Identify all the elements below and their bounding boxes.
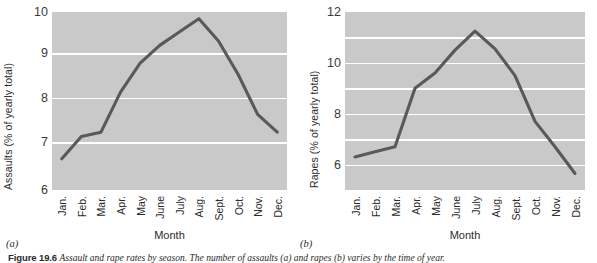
x-tick-mark [100, 190, 101, 195]
x-tick-label-mar: Mar. [390, 196, 402, 216]
x-tick-mark [374, 190, 375, 195]
figure-caption: Figure 19.6 Assault and rape rates by se… [8, 252, 593, 263]
x-tick-label-sept: Sept. [510, 196, 522, 221]
x-tick-label-oct: Oct. [530, 196, 542, 215]
x-tick-label-jan: Jan. [350, 196, 362, 216]
x-tick-label-may: May [430, 196, 442, 216]
x-tick-mark [394, 190, 395, 195]
x-tick-label-aug: Aug. [490, 196, 502, 218]
x-axis-tick-labels-b: Jan.Feb.Mar.Apr.MayJuneJulyAug.Sept.Oct.… [345, 196, 585, 230]
y-tick-a-6: 6 [20, 183, 48, 197]
figure-container: Assaults (% of yearly total) 10 9 8 7 6 … [0, 0, 597, 263]
x-tick-label-dec: Dec. [272, 196, 284, 218]
x-tick-label-apr: Apr. [115, 196, 127, 215]
y-tick-a-9: 9 [20, 46, 48, 60]
x-tick-label-sept: Sept. [213, 196, 225, 221]
x-tick-mark [574, 190, 575, 195]
x-tick-mark [454, 190, 455, 195]
series-line-rapes [345, 12, 585, 190]
x-tick-label-feb: Feb. [370, 196, 382, 217]
panel-letter-b: (b) [300, 238, 312, 249]
x-axis-tick-labels-a: Jan.Feb.Mar.Apr.MayJuneJulyAug.Sept.Oct.… [52, 196, 287, 230]
x-tick-mark [81, 190, 82, 195]
y-tick-a-8: 8 [20, 91, 48, 105]
series-line-assaults [52, 12, 287, 190]
x-tick-label-apr: Apr. [410, 196, 422, 215]
x-tick-mark [434, 190, 435, 195]
x-tick-label-aug: Aug. [193, 196, 205, 218]
y-tick-b-6: 6 [314, 158, 341, 172]
x-tick-label-oct: Oct. [233, 196, 245, 215]
x-tick-mark [120, 190, 121, 195]
x-tick-mark [277, 190, 278, 195]
x-tick-label-may: May [135, 196, 147, 216]
x-axis-title-a: Month [52, 229, 287, 241]
x-tick-mark [534, 190, 535, 195]
x-tick-mark [139, 190, 140, 195]
y-axis-label-assaults: Assaults (% of yearly total) [2, 18, 14, 190]
y-tick-b-12: 12 [314, 5, 341, 19]
x-tick-mark [159, 190, 160, 195]
x-tick-mark [414, 190, 415, 195]
plot-area-wrapper-b [345, 12, 585, 190]
y-tick-b-8: 8 [314, 107, 341, 121]
x-axis-title-b: Month [345, 229, 585, 241]
x-tick-mark [257, 190, 258, 195]
x-tick-label-dec: Dec. [570, 196, 582, 218]
x-tick-mark [179, 190, 180, 195]
x-tick-label-june: June [450, 196, 462, 219]
chart-panel-b: Rapes (% of yearly total) 12 10 8 6 Jan.… [300, 0, 597, 250]
x-tick-mark [237, 190, 238, 195]
x-tick-mark [554, 190, 555, 195]
y-tick-b-10: 10 [314, 56, 341, 70]
x-tick-label-jan: Jan. [56, 196, 68, 216]
plot-area-wrapper-a [52, 12, 287, 190]
x-tick-mark [218, 190, 219, 195]
chart-panel-a: Assaults (% of yearly total) 10 9 8 7 6 … [0, 0, 300, 250]
x-tick-mark [61, 190, 62, 195]
x-tick-label-feb: Feb. [76, 196, 88, 217]
x-tick-mark [198, 190, 199, 195]
caption-text: Assault and rape rates by season. The nu… [59, 253, 445, 263]
x-tick-label-july: July [470, 196, 482, 215]
x-tick-label-nov: Nov. [252, 196, 264, 217]
x-tick-label-mar: Mar. [95, 196, 107, 216]
x-tick-label-nov: Nov. [550, 196, 562, 217]
x-tick-label-july: July [174, 196, 186, 215]
x-tick-mark [494, 190, 495, 195]
x-tick-label-june: June [154, 196, 166, 219]
x-tick-mark [474, 190, 475, 195]
caption-label: Figure 19.6 [8, 252, 57, 263]
x-tick-mark [354, 190, 355, 195]
plot-background-b [345, 12, 585, 190]
panel-letter-a: (a) [6, 238, 18, 249]
x-tick-mark [514, 190, 515, 195]
y-tick-a-7: 7 [20, 135, 48, 149]
plot-background-a [52, 12, 287, 190]
y-tick-a-10: 10 [20, 5, 48, 19]
